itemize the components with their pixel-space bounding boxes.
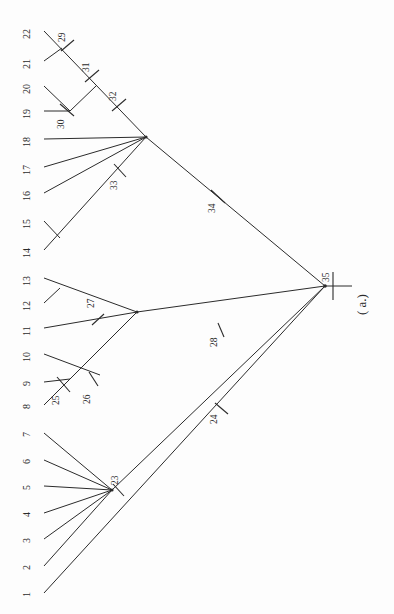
branch-28-to-root xyxy=(137,286,325,312)
panel-label: ( a.) xyxy=(354,294,369,315)
node-label-27: 27 xyxy=(86,298,96,308)
tip-label-15: 15 xyxy=(21,219,32,229)
node-label-23: 23 xyxy=(110,475,120,485)
branch-tip-15 xyxy=(44,221,60,238)
node-label-32: 32 xyxy=(108,91,118,101)
branch-tip-6 xyxy=(44,460,112,490)
tip-label-22: 22 xyxy=(21,29,32,39)
branch-23-to-24 xyxy=(112,286,325,490)
tip-label-3: 3 xyxy=(21,538,32,543)
tip-label-6: 6 xyxy=(21,459,32,464)
branch-tickmarks xyxy=(57,40,228,496)
branch-tip-5 xyxy=(44,486,112,490)
tip-label-2: 2 xyxy=(21,565,32,570)
node-label-29: 29 xyxy=(57,32,67,42)
node-label-35: 35 xyxy=(321,272,331,282)
node-label-30: 30 xyxy=(56,119,66,129)
tip-label-16: 16 xyxy=(21,191,32,201)
clade-23-edges xyxy=(44,433,114,566)
node-label-25: 25 xyxy=(51,395,61,405)
tip-label-1: 1 xyxy=(21,592,32,597)
tick-node-24 xyxy=(215,403,228,414)
tip-label-14: 14 xyxy=(21,248,32,258)
branch-tip-16 xyxy=(44,137,146,193)
tip-label-5: 5 xyxy=(21,485,32,490)
branch-tip-12 xyxy=(44,288,60,303)
branch-tip-20 xyxy=(44,86,70,111)
tip-label-11: 11 xyxy=(21,326,32,336)
node-label-28: 28 xyxy=(209,337,219,347)
branch-tip-3 xyxy=(44,490,112,539)
tip-label-10: 10 xyxy=(21,352,32,362)
tick-node-34 xyxy=(211,190,225,203)
branch-30-to-31 xyxy=(70,86,96,111)
tick-node-28 xyxy=(218,323,224,337)
tip-label-8: 8 xyxy=(21,404,32,409)
tip-label-4: 4 xyxy=(21,512,32,517)
tip-label-7: 7 xyxy=(21,432,32,437)
figure-panel: 1 2 3 4 5 6 7 8 9 10 11 12 13 14 15 16 1… xyxy=(0,0,394,614)
branch-tip-21 xyxy=(44,48,62,61)
tip-label-20: 20 xyxy=(21,84,32,94)
tip-label-17: 17 xyxy=(21,165,32,175)
node-label-33: 33 xyxy=(109,180,119,190)
tip-label-18: 18 xyxy=(21,137,32,147)
branch-tip-18 xyxy=(44,137,146,139)
tick-node-30 xyxy=(60,104,74,116)
branch-tip-9 xyxy=(44,379,70,382)
tip-label-21: 21 xyxy=(21,59,32,69)
node-label-34: 34 xyxy=(207,203,217,213)
branch-tip-1 xyxy=(44,286,325,593)
tip-label-13: 13 xyxy=(21,276,32,286)
branch-tip-14 xyxy=(44,137,146,250)
tip-label-19: 19 xyxy=(21,109,32,119)
node-label-24: 24 xyxy=(209,414,219,424)
node-label-26: 26 xyxy=(82,394,92,404)
cladogram-canvas: 1 2 3 4 5 6 7 8 9 10 11 12 13 14 15 16 1… xyxy=(0,0,394,614)
internal-node-labels: 23 24 25 26 27 28 29 30 31 32 33 34 35 xyxy=(51,32,331,485)
clade-25-26-27-edges xyxy=(44,278,325,405)
node-label-31: 31 xyxy=(81,62,91,72)
branch-tip-7 xyxy=(44,433,112,490)
tip-labels: 1 2 3 4 5 6 7 8 9 10 11 12 13 14 15 16 1… xyxy=(21,29,32,597)
clade-24-edges xyxy=(44,286,325,593)
branch-tip-17 xyxy=(44,137,146,167)
tip-label-9: 9 xyxy=(21,381,32,386)
tip-label-12: 12 xyxy=(21,301,32,311)
branch-34-to-root xyxy=(146,137,325,286)
